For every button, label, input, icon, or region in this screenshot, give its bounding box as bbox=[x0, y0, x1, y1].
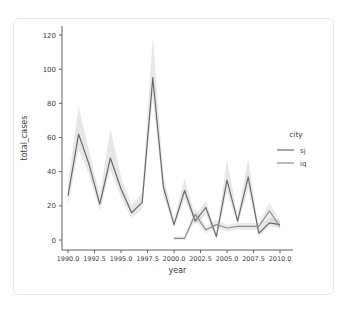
y-axis: 020406080100120 bbox=[43, 32, 62, 245]
x-tick-label: 1992.5 bbox=[83, 255, 106, 263]
x-axis: 1990.01992.51995.01997.52000.02002.52005… bbox=[57, 250, 292, 263]
legend: citysjiq bbox=[277, 130, 306, 168]
x-tick-label: 1995.0 bbox=[110, 255, 133, 263]
y-tick-label: 100 bbox=[43, 66, 56, 74]
y-tick-label: 20 bbox=[47, 202, 56, 210]
legend-label-iq: iq bbox=[300, 160, 306, 168]
series-line-sj bbox=[68, 78, 280, 237]
y-tick-label: 0 bbox=[52, 237, 56, 245]
y-tick-label: 60 bbox=[47, 134, 56, 142]
y-tick-label: 80 bbox=[47, 100, 56, 108]
x-tick-label: 2010.0 bbox=[269, 255, 292, 263]
x-tick-label: 1997.5 bbox=[136, 255, 159, 263]
x-tick-label: 2007.5 bbox=[242, 255, 265, 263]
x-axis-title: year bbox=[169, 266, 188, 275]
x-tick-label: 1990.0 bbox=[57, 255, 80, 263]
y-axis-title: total_cases bbox=[20, 116, 29, 161]
line-chart: 0204060801001201990.01992.51995.01997.52… bbox=[0, 0, 348, 310]
y-tick-label: 40 bbox=[47, 168, 56, 176]
ci-band-sj bbox=[68, 37, 280, 239]
y-tick-label: 120 bbox=[43, 32, 56, 40]
x-tick-label: 2000.0 bbox=[163, 255, 186, 263]
legend-title: city bbox=[289, 130, 303, 139]
legend-label-sj: sj bbox=[300, 147, 306, 155]
x-tick-label: 2005.0 bbox=[216, 255, 239, 263]
x-tick-label: 2002.5 bbox=[189, 255, 212, 263]
